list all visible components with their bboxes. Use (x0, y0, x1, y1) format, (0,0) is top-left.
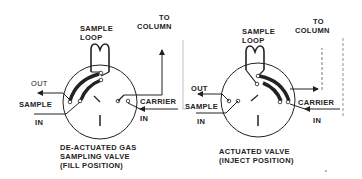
left-valve-caption: DE-ACTUATED GAS SAMPLING VALVE (FILL POS… (60, 143, 136, 170)
right-valve-caption: ACTUATED VALVE (INJECT POSITION) (219, 147, 294, 165)
right-carrier-label: CARRIER (298, 98, 334, 107)
left-rotor-channel-2 (81, 80, 101, 100)
left-carrier-label: CARRIER (140, 97, 176, 106)
left-caption-line1: DE-ACTUATED GAS (60, 143, 136, 152)
left-sample-loop-label: SAMPLE LOOP (80, 24, 113, 42)
stray-dot (325, 170, 327, 172)
right-sample-loop (246, 46, 264, 70)
right-to-column-line2: COLUMN (295, 26, 330, 35)
left-valve (34, 44, 178, 139)
right-caption-line2: (INJECT POSITION) (219, 156, 294, 165)
right-sample-label: SAMPLE (185, 102, 218, 111)
right-sample-in-label: IN (197, 117, 205, 126)
right-caption-line1: ACTUATED VALVE (219, 147, 294, 156)
left-to-column-line2: COLUMN (137, 22, 172, 31)
left-sample-label: SAMPLE (19, 100, 52, 109)
right-out-label: OUT (191, 84, 208, 93)
right-sample-loop-label: SAMPLE LOOP (242, 27, 275, 45)
left-sample-in-label: IN (35, 118, 43, 127)
left-sample-loop (91, 44, 109, 72)
left-to-column-line1: TO (137, 13, 172, 22)
left-carrier-in-label: IN (140, 114, 148, 123)
left-caption-line2: SAMPLING VALVE (60, 152, 136, 161)
right-sample-loop-line1: SAMPLE (242, 27, 275, 36)
right-to-column-label: TO COLUMN (295, 17, 330, 35)
left-sample-loop-line1: SAMPLE (80, 24, 113, 33)
left-to-column-label: TO COLUMN (137, 13, 172, 31)
left-sample-loop-line2: LOOP (80, 33, 113, 42)
right-sample-loop-line2: LOOP (242, 36, 275, 45)
gas-sampling-valve-diagram: SAMPLE LOOP TO COLUMN OUT SAMPLE IN CARR… (0, 0, 362, 179)
right-to-column-line1: TO (295, 17, 330, 26)
right-carrier-in-label: IN (313, 116, 321, 125)
left-out-label: OUT (31, 79, 48, 88)
left-caption-line3: (FILL POSITION) (60, 161, 136, 170)
